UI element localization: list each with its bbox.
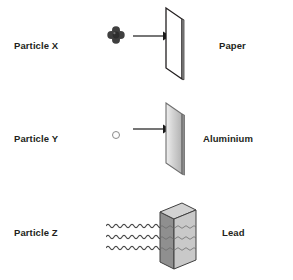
aluminium-label: Aluminium [203, 133, 253, 145]
particle-y-label: Particle Y [14, 133, 58, 145]
particle-z-label: Particle Z [14, 227, 58, 239]
alpha-particle-cluster-icon [107, 26, 125, 44]
paper-sheet-icon [160, 6, 200, 86]
radiation-penetration-diagram: Particle X Pape [0, 0, 293, 280]
particle-x-label: Particle X [14, 40, 58, 52]
beta-particle-dot-icon [112, 131, 120, 139]
lead-block-icon [155, 200, 215, 276]
paper-label: Paper [219, 40, 246, 52]
aluminium-sheet-icon [160, 100, 202, 182]
lead-label: Lead [222, 227, 245, 239]
diagram-row-alpha: Particle X Pape [0, 0, 293, 93]
